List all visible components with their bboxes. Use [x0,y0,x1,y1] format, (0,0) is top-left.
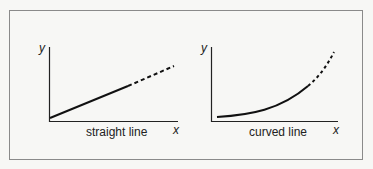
curved-line-solid [217,86,308,117]
right-y-axis-label: y [201,41,207,55]
right-x-axis-label: x [333,123,339,137]
curved-line-dashed [308,52,334,86]
straight-line-solid [50,86,128,118]
diagram-canvas [0,0,373,169]
left-caption: straight line [86,125,147,139]
left-y-axis-label: y [39,41,45,55]
right-caption: curved line [249,125,307,139]
panel-straight-line [49,47,178,122]
left-x-axis-label: x [173,123,179,137]
panel-curved-line [211,47,338,122]
straight-line-dashed [128,66,174,86]
